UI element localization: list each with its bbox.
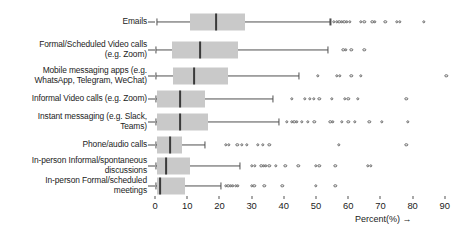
category-tick: [148, 50, 155, 51]
whisker-high: [238, 49, 328, 50]
outlier-point: [252, 184, 255, 187]
x-tick-label: 60: [343, 200, 353, 211]
outlier-point: [256, 143, 259, 146]
outlier-point: [330, 97, 333, 100]
outlier-point: [359, 74, 362, 77]
outlier-point: [268, 164, 271, 167]
outlier-point: [261, 143, 264, 146]
category-tick: [148, 99, 155, 100]
outlier-point: [312, 97, 315, 100]
category-tick: [148, 166, 155, 167]
category-label: Formal/Scheduled Video calls (e.g. Zoom): [39, 40, 147, 59]
outlier-point: [297, 164, 300, 167]
whisker-cap-high: [330, 18, 331, 25]
outlier-point: [318, 164, 321, 167]
whisker-high: [190, 165, 240, 166]
outlier-point: [353, 120, 356, 123]
category-tick: [148, 122, 155, 123]
x-tick: [380, 196, 381, 199]
outlier-point: [245, 143, 248, 146]
outlier-point: [313, 120, 316, 123]
category-tick: [148, 186, 155, 187]
x-tick-label: 40: [279, 200, 289, 211]
x-tick: [412, 196, 413, 199]
outlier-point: [240, 143, 243, 146]
outlier-point: [398, 20, 401, 23]
box-iqr: [157, 114, 209, 131]
category-label: In-person Informal/spontaneous discussio…: [32, 156, 147, 175]
median-line: [193, 68, 195, 85]
whisker-cap-high: [278, 118, 279, 125]
category-label: In-person Formal/scheduled meetings: [45, 176, 147, 195]
box-iqr: [157, 158, 191, 175]
outlier-point: [235, 143, 238, 146]
outlier-point: [285, 120, 288, 123]
whisker-cap-low: [156, 46, 157, 53]
x-tick-label: 50: [311, 200, 321, 211]
x-axis-title: Percent(%) →: [355, 214, 412, 224]
outlier-point: [363, 20, 366, 23]
x-tick-label: 20: [214, 200, 224, 211]
median-line: [165, 158, 167, 175]
boxplot-chart: EmailsFormal/Scheduled Video calls (e.g.…: [0, 0, 451, 234]
outlier-point: [346, 97, 349, 100]
outlier-point: [306, 120, 309, 123]
whisker-low: [157, 21, 191, 22]
category-label: Instant messaging (e.g. Slack, Teams): [38, 112, 147, 131]
outlier-point: [236, 184, 239, 187]
outlier-point: [445, 74, 448, 77]
median-line: [215, 14, 217, 31]
whisker-high: [228, 75, 299, 76]
outlier-point: [295, 120, 298, 123]
whisker-cap-low: [156, 18, 157, 25]
outlier-point: [340, 120, 343, 123]
outlier-point: [303, 97, 306, 100]
whisker-cap-high: [204, 141, 205, 148]
x-tick: [155, 196, 156, 199]
x-tick: [187, 196, 188, 199]
outlier-point: [316, 74, 319, 77]
outlier-point: [406, 120, 409, 123]
outlier-point: [346, 120, 349, 123]
category-tick: [148, 76, 155, 77]
whisker-cap-low: [156, 72, 157, 79]
outlier-point: [373, 20, 376, 23]
outlier-point: [356, 97, 359, 100]
x-tick-label: 30: [246, 200, 256, 211]
x-tick-label: 90: [440, 200, 450, 211]
outlier-point: [268, 143, 271, 146]
outlier-point: [380, 120, 383, 123]
whisker-high: [185, 185, 221, 186]
outlier-point: [334, 184, 337, 187]
whisker-high: [182, 144, 205, 145]
whisker-low: [156, 75, 173, 76]
x-tick: [251, 196, 252, 199]
median-line: [159, 178, 161, 195]
outlier-point: [348, 20, 351, 23]
outlier-point: [404, 143, 407, 146]
x-tick-label: 70: [375, 200, 385, 211]
category-label: Mobile messaging apps (e.g. WhatsApp, Te…: [35, 66, 147, 85]
outlier-point: [284, 164, 287, 167]
outlier-point: [331, 120, 334, 123]
outlier-point: [318, 97, 321, 100]
median-line: [199, 42, 201, 59]
outlier-point: [280, 184, 283, 187]
whisker-cap-high: [240, 162, 241, 169]
outlier-point: [263, 184, 266, 187]
median-line: [169, 137, 171, 154]
whisker-cap-high: [328, 46, 329, 53]
x-tick: [316, 196, 317, 199]
category-tick: [148, 22, 155, 23]
median-line: [179, 91, 181, 108]
whisker-cap-high: [272, 95, 273, 102]
whisker-high: [205, 98, 272, 99]
box-iqr: [173, 68, 228, 85]
outlier-point: [384, 20, 387, 23]
x-tick: [219, 196, 220, 199]
x-tick-label: 80: [407, 200, 417, 211]
x-tick: [348, 196, 349, 199]
outlier-point: [314, 184, 317, 187]
outlier-point: [290, 97, 293, 100]
outlier-point: [334, 164, 337, 167]
